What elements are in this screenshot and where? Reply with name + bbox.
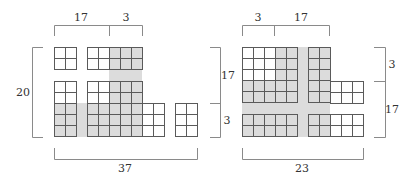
grid-cell	[88, 93, 99, 104]
grid-cell	[287, 48, 298, 59]
grid-cell	[187, 115, 198, 126]
shaded-strip	[109, 70, 142, 81]
grid-cell	[66, 82, 77, 93]
grid-cell	[110, 104, 121, 115]
right-right-bracket	[374, 48, 386, 138]
grid-cell	[99, 59, 110, 70]
grid-cell	[66, 59, 77, 70]
grid-cell	[331, 115, 342, 126]
grid-cell	[265, 92, 276, 103]
grid-cell	[132, 48, 143, 59]
grid-cell	[132, 82, 143, 93]
grid-cell	[320, 92, 331, 103]
grid-cell	[99, 104, 110, 115]
grid-cell	[88, 126, 99, 137]
grid-cell	[254, 59, 265, 70]
grid-cell	[243, 81, 254, 92]
right-bottom-bracket	[243, 148, 364, 160]
grid-cell	[143, 126, 154, 137]
right-left-bracket	[210, 48, 221, 138]
grid-cell	[121, 126, 132, 137]
grid-cell	[243, 126, 254, 137]
grid-cell	[132, 126, 143, 137]
left-bottom-bracket	[55, 148, 198, 160]
grid-cell	[276, 81, 287, 92]
grid-cell	[320, 115, 331, 126]
grid-cell	[309, 70, 320, 81]
grid-cell	[276, 48, 287, 59]
grid-cell	[276, 59, 287, 70]
grid-cell	[110, 126, 121, 137]
grid-cell	[254, 126, 265, 137]
grid-cell	[110, 115, 121, 126]
left-top-right-label: 3	[123, 11, 130, 24]
grid-cell	[55, 82, 66, 93]
grid-cell	[66, 126, 77, 137]
grid-cell	[254, 81, 265, 92]
grid-cell	[55, 115, 66, 126]
grid-cell	[99, 126, 110, 137]
grid-cell	[243, 70, 254, 81]
grid-cell	[187, 104, 198, 115]
grid-cell	[143, 115, 154, 126]
right-left-upper-label: 17	[221, 69, 235, 82]
grid-cell	[55, 48, 66, 59]
grid-cell	[353, 82, 364, 93]
grid-cell	[66, 104, 77, 115]
grid-cell	[99, 93, 110, 104]
grid-cell	[265, 48, 276, 59]
grid-cell	[287, 115, 298, 126]
grid-cell	[88, 48, 99, 59]
grid-cell	[254, 48, 265, 59]
left-top-bracket	[55, 26, 143, 37]
grid-cell	[342, 82, 353, 93]
grid-cell	[121, 93, 132, 104]
grid-blocks	[55, 48, 364, 137]
grid-cell	[176, 115, 187, 126]
right-top-bracket	[243, 26, 330, 37]
grid-cell	[88, 59, 99, 70]
left-side-label: 20	[16, 86, 30, 99]
grid-cell	[331, 126, 342, 137]
grid-cell	[187, 126, 198, 137]
grid-cell	[265, 59, 276, 70]
grid-cell	[287, 126, 298, 137]
grid-cell	[320, 126, 331, 137]
grid-diagram: 17 3 20 37 3 17 17 3 3 17 23	[0, 0, 417, 182]
grid-cell	[287, 81, 298, 92]
grid-cell	[276, 70, 287, 81]
grid-cell	[276, 115, 287, 126]
grid-cell	[110, 59, 121, 70]
right-right-upper-label: 3	[389, 58, 396, 71]
grid-cell	[121, 82, 132, 93]
grid-cell	[254, 92, 265, 103]
grid-cell	[99, 48, 110, 59]
grid-cell	[121, 115, 132, 126]
grid-cell	[265, 115, 276, 126]
grid-cell	[331, 93, 342, 104]
right-top-left-label: 3	[255, 11, 262, 24]
grid-cell	[342, 126, 353, 137]
grid-cell	[55, 93, 66, 104]
grid-cell	[55, 59, 66, 70]
grid-cell	[132, 115, 143, 126]
grid-cell	[154, 126, 165, 137]
grid-cell	[309, 48, 320, 59]
grid-cell	[331, 82, 342, 93]
grid-cell	[121, 48, 132, 59]
grid-cell	[110, 48, 121, 59]
grid-cell	[353, 115, 364, 126]
grid-cell	[243, 59, 254, 70]
grid-cell	[320, 70, 331, 81]
right-bottom-label: 23	[295, 162, 309, 175]
grid-cell	[110, 82, 121, 93]
grid-cell	[66, 93, 77, 104]
left-bottom-label: 37	[118, 162, 132, 175]
left-side-bracket	[33, 48, 44, 138]
grid-cell	[143, 104, 154, 115]
shaded-strip	[242, 103, 330, 114]
grid-cell	[132, 93, 143, 104]
grid-cell	[243, 92, 254, 103]
grid-cell	[320, 48, 331, 59]
grid-cell	[287, 70, 298, 81]
